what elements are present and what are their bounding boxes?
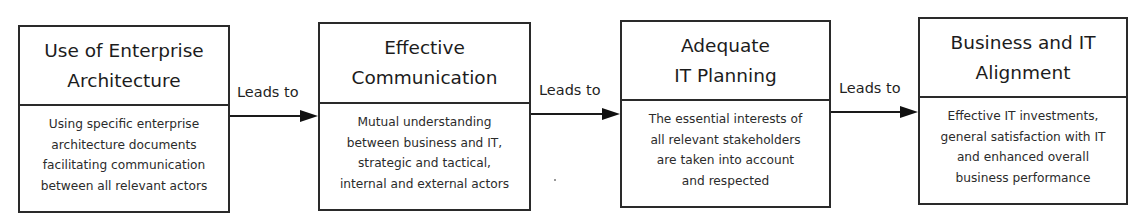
node-effective-communication: Effective Communication Mutual understan… [318, 22, 531, 211]
edge-label: Leads to [237, 84, 299, 100]
node-description: The essential interests of all relevant … [622, 101, 829, 206]
node-title: Effective Communication [320, 24, 529, 104]
node-use-of-enterprise-architecture: Use of Enterprise Architecture Using spe… [18, 25, 230, 213]
edge-3-to-4: Leads to [831, 100, 919, 124]
edge-label: Leads to [539, 82, 601, 98]
node-description: Using specific enterprise architecture d… [20, 106, 228, 211]
node-description: Effective IT investments, general satisf… [920, 98, 1126, 203]
arrow-right-icon [300, 110, 318, 122]
arrow-right-icon [900, 106, 918, 118]
edge-2-to-3: Leads to [531, 102, 621, 126]
arrow-line [531, 113, 603, 115]
edge-1-to-2: Leads to [230, 104, 319, 128]
arrow-line [831, 111, 901, 113]
node-business-and-it-alignment: Business and IT Alignment Effective IT i… [918, 17, 1128, 205]
node-adequate-it-planning: Adequate IT Planning The essential inter… [620, 20, 831, 208]
node-title: Use of Enterprise Architecture [20, 27, 228, 106]
node-description: Mutual understanding between business an… [320, 104, 529, 209]
arrow-right-icon [602, 108, 620, 120]
node-title: Business and IT Alignment [920, 19, 1126, 98]
node-title: Adequate IT Planning [622, 22, 829, 101]
arrow-line [230, 115, 302, 117]
edge-label: Leads to [839, 80, 901, 96]
stray-mark [554, 179, 556, 181]
